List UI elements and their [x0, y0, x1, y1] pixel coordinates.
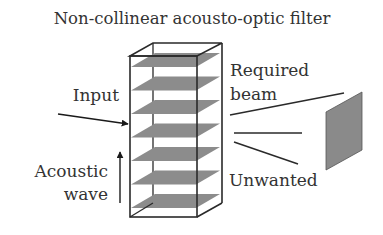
- acoustic-wave-label-line2: wave: [64, 184, 108, 204]
- crystal-plate: [131, 194, 220, 208]
- unwanted-label: Unwanted: [229, 170, 318, 190]
- input-arrow: [58, 114, 128, 124]
- acousto-optic-filter-diagram: Non-collinear acousto-optic filter Input…: [0, 0, 383, 235]
- crystal-plate: [131, 100, 220, 114]
- required-beam-label-line2: beam: [230, 84, 277, 104]
- acoustic-wave-label-line1: Acoustic: [34, 161, 109, 181]
- input-label: Input: [73, 85, 119, 105]
- crystal-plate: [131, 77, 220, 91]
- crystal-plate: [131, 53, 220, 67]
- required-beam-label-line1: Required: [230, 60, 309, 80]
- crystal-box: [130, 43, 222, 217]
- crystal-plate: [131, 147, 220, 161]
- crystal-plate: [131, 171, 220, 185]
- diagram-title: Non-collinear acousto-optic filter: [54, 9, 331, 28]
- crystal-plates: [131, 53, 220, 208]
- detector-screen: [326, 92, 362, 170]
- crystal-plate: [131, 124, 220, 138]
- unwanted-beam-line-angled: [234, 142, 298, 164]
